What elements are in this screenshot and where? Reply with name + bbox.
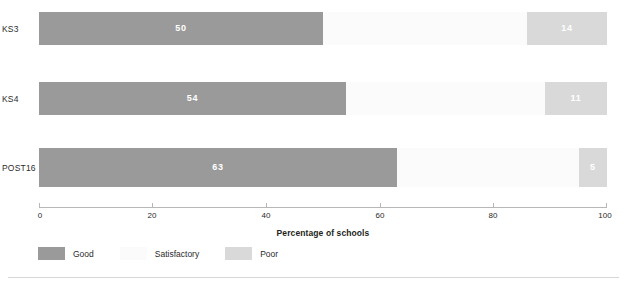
legend-item-poor[interactable]: Poor xyxy=(225,247,278,260)
bar-segment-good[interactable]: 63 xyxy=(39,148,397,187)
x-axis-tick xyxy=(152,203,153,208)
bar-segment-satisfactory[interactable] xyxy=(346,82,545,115)
legend-swatch-good-icon xyxy=(38,247,65,260)
bar-segment-good[interactable]: 50 xyxy=(39,12,323,45)
x-axis-title: Percentage of schools xyxy=(39,228,607,238)
x-axis-tick xyxy=(380,203,381,208)
legend-item-satisfactory[interactable]: Satisfactory xyxy=(120,247,199,260)
legend-swatch-satisfactory-icon xyxy=(120,247,147,260)
footer-divider xyxy=(8,277,619,278)
x-axis-tick xyxy=(39,203,40,208)
x-axis-tick-label: 0 xyxy=(38,211,42,220)
x-axis-tick-label: 20 xyxy=(148,211,157,220)
legend-label: Poor xyxy=(260,249,278,259)
x-axis-tick-label: 60 xyxy=(376,211,385,220)
bar-row: 50 14 xyxy=(39,12,607,45)
bar-segment-satisfactory[interactable] xyxy=(397,148,579,187)
bar-value-label: 54 xyxy=(187,94,199,103)
x-axis-tick xyxy=(606,203,607,208)
bar-value-label: 14 xyxy=(561,24,573,33)
x-axis-tick-label: 100 xyxy=(598,211,611,220)
bar-segment-good[interactable]: 54 xyxy=(39,82,346,115)
legend-item-good[interactable]: Good xyxy=(38,247,94,260)
legend-label: Good xyxy=(73,249,94,259)
bar-value-label: 5 xyxy=(590,163,596,172)
legend-swatch-poor-icon xyxy=(225,247,252,260)
bar-segment-poor[interactable]: 11 xyxy=(545,82,607,115)
bar-value-label: 50 xyxy=(175,24,187,33)
bar-segment-poor[interactable]: 14 xyxy=(527,12,607,45)
x-axis-tick-label: 40 xyxy=(262,211,271,220)
bar-segment-poor[interactable]: 5 xyxy=(579,148,607,187)
category-label-ks3: KS3 xyxy=(2,24,36,34)
bar-row: 54 11 xyxy=(39,82,607,115)
x-axis-tick xyxy=(493,203,494,208)
x-axis-tick-label: 80 xyxy=(489,211,498,220)
x-axis-line xyxy=(39,207,607,208)
bar-value-label: 63 xyxy=(212,163,224,172)
category-label-post16: POST16 xyxy=(2,163,36,173)
x-axis-tick xyxy=(266,203,267,208)
bar-value-label: 11 xyxy=(570,94,581,103)
legend-label: Satisfactory xyxy=(155,249,199,259)
bar-segment-satisfactory[interactable] xyxy=(323,12,527,45)
legend: Good Satisfactory Poor xyxy=(38,247,304,260)
category-label-ks4: KS4 xyxy=(2,94,36,104)
bar-row: 63 5 xyxy=(39,148,607,187)
stacked-bar-chart: KS3 KS4 POST16 50 14 54 11 63 xyxy=(0,0,627,285)
